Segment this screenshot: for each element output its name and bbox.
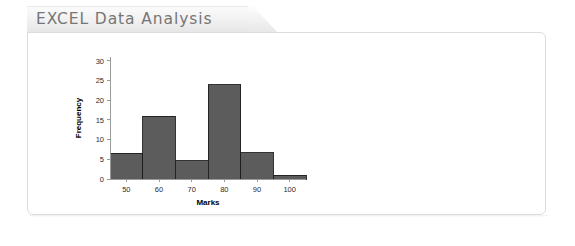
bar-series <box>110 85 306 179</box>
x-axis-label: Marks <box>196 198 220 207</box>
histogram-bar <box>175 161 208 179</box>
histogram-bar <box>208 85 241 179</box>
y-tick-label: 15 <box>96 116 104 125</box>
y-tick-label: 10 <box>96 135 104 144</box>
y-tick-label: 25 <box>96 76 104 85</box>
x-axis-ticks: 5060708090100 <box>122 179 296 194</box>
histogram-bar <box>241 153 274 179</box>
y-tick-label: 20 <box>96 96 104 105</box>
histogram-bar <box>273 175 306 179</box>
histogram-chart: 051015202530 5060708090100 Frequency Mar… <box>68 51 328 211</box>
panel-shadow <box>29 215 548 217</box>
x-tick-label: 100 <box>283 185 296 194</box>
page-title: EXCEL Data Analysis <box>36 10 212 28</box>
x-tick-label: 50 <box>122 185 130 194</box>
chart-svg: 051015202530 5060708090100 Frequency Mar… <box>68 51 328 211</box>
content-panel: 051015202530 5060708090100 Frequency Mar… <box>27 32 546 215</box>
x-tick-label: 60 <box>155 185 163 194</box>
y-axis-label: Frequency <box>74 97 83 138</box>
y-tick-label: 0 <box>100 175 104 184</box>
header-tab-slant <box>248 6 278 33</box>
x-tick-label: 70 <box>187 185 195 194</box>
x-tick-label: 90 <box>253 185 261 194</box>
y-axis-ticks: 051015202530 <box>96 57 110 184</box>
y-tick-label: 5 <box>100 155 104 164</box>
histogram-bar <box>110 153 143 179</box>
header-tab[interactable]: EXCEL Data Analysis <box>27 6 249 33</box>
histogram-bar <box>143 116 176 179</box>
y-tick-label: 30 <box>96 57 104 66</box>
x-tick-label: 80 <box>220 185 228 194</box>
